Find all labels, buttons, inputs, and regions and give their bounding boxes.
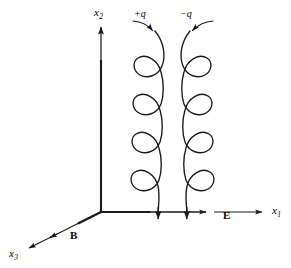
axis-label-x3: x3 — [9, 248, 18, 259]
positive-charge-entry-arrow — [133, 21, 153, 31]
axis-label-x3-subscript: 3 — [14, 253, 18, 262]
positive-charge-trajectory — [131, 21, 164, 219]
axis-x3 — [29, 212, 101, 248]
negative-charge-trajectory — [181, 21, 214, 219]
axis-label-x2-subscript: 2 — [99, 12, 103, 21]
electric-field-label: E — [223, 210, 230, 221]
negative-charge-label: −q — [180, 9, 192, 19]
magnetic-field-label: B — [70, 230, 77, 241]
negative-charge-entry-arrow — [193, 21, 214, 31]
axis-label-x1-subscript: 1 — [277, 210, 281, 219]
axis-label-x1: x1 — [272, 205, 281, 216]
axis-label-x2: x2 — [94, 7, 103, 18]
physics-figure: x1 x2 x3 E B +q −q — [0, 0, 291, 268]
figure-canvas — [0, 0, 291, 268]
positive-charge-label: +q — [134, 9, 146, 19]
x3-axis-arrowhead — [29, 234, 57, 248]
